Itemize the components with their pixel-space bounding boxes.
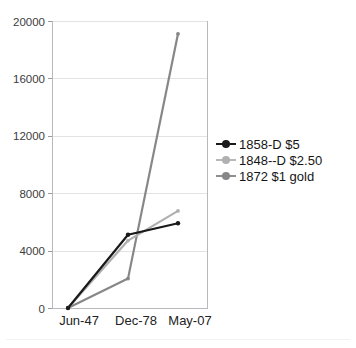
legend-label-1872-dollar1-gold: 1872 $1 gold [239,169,314,184]
series-line-1848-d-dollar2-50 [68,211,178,308]
ytick-label-4000: 4000 [19,245,45,257]
y-axis-labels: 20000 16000 12000 8000 4000 0 [13,16,45,315]
data-point-1858d-may07 [176,221,180,225]
series-1858-d-dollar5 [66,221,180,310]
data-point-1858d-dec78 [126,233,130,237]
xtick-label-dec-78: Dec-78 [115,313,157,328]
y-axis-tickmarks [48,22,52,309]
data-point-1848d-may07 [176,209,180,213]
legend-item-1848-d-dollar2-50[interactable]: 1848--D $2.50 [216,152,356,168]
ytick-label-16000: 16000 [13,73,45,85]
data-point-1858d-jun47 [66,306,70,310]
chart-container: 20000 16000 12000 8000 4000 0 Jun-47 [0,0,356,348]
data-point-1872-may07 [176,32,180,36]
xtick-label-may-07: May-07 [168,313,211,328]
legend-item-1858-d-dollar5[interactable]: 1858-D $5 [216,136,356,152]
chart-legend: 1858-D $5 1848--D $2.50 1872 $1 gold [216,136,356,184]
gridlines [52,22,208,252]
bottom-divider [6,339,350,340]
ytick-label-8000: 8000 [19,188,45,200]
ytick-label-12000: 12000 [13,130,45,142]
legend-marker-icon-1848-d-dollar2-50 [216,153,236,167]
legend-marker-icon-1858-d-dollar5 [216,137,236,151]
legend-marker-icon-1872-dollar1-gold [216,169,236,183]
ytick-label-20000: 20000 [13,16,45,28]
legend-item-1872-dollar1-gold[interactable]: 1872 $1 gold [216,168,356,184]
x-axis-labels: Jun-47 Dec-78 May-07 [59,313,212,328]
series-line-1872-dollar1-gold [68,34,178,308]
series-1848-d-dollar2-50 [66,209,180,310]
series-line-1858-d-dollar5 [68,223,178,308]
series-1872-dollar1-gold [66,32,180,310]
data-point-1872-dec78 [126,277,130,281]
data-point-1848d-dec78 [126,239,130,243]
legend-label-1848-d-dollar2-50: 1848--D $2.50 [239,153,322,168]
xtick-label-jun-47: Jun-47 [59,313,99,328]
legend-label-1858-d-dollar5: 1858-D $5 [239,137,300,152]
ytick-label-0: 0 [39,303,45,315]
